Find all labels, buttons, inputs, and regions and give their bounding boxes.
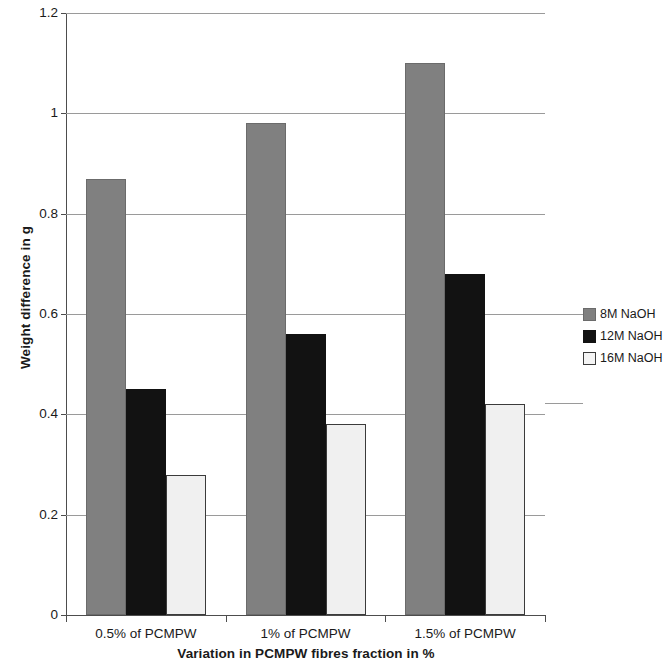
legend-item-0[interactable]: 8M NaOH <box>583 303 670 325</box>
x-axis-tick <box>385 615 386 622</box>
legend-swatch-icon <box>583 352 596 365</box>
legend-item-1[interactable]: 12M NaOH <box>583 325 670 347</box>
y-tick-mark <box>61 414 66 415</box>
bar-12m-naoh-1 <box>286 334 326 615</box>
gridline <box>66 214 545 215</box>
bar-16m-naoh-1 <box>326 424 366 615</box>
legend-swatch-icon <box>583 330 596 343</box>
legend-label: 12M NaOH <box>600 329 663 343</box>
y-tick-label: 0.6 <box>8 307 58 321</box>
bar-16m-naoh-2 <box>485 404 525 615</box>
y-tick-mark <box>61 13 66 14</box>
legend-item-2[interactable]: 16M NaOH <box>583 347 670 369</box>
x-category-label: 1.5% of PCMPW <box>375 626 555 641</box>
x-axis-line <box>66 615 545 616</box>
y-tick-mark <box>61 314 66 315</box>
legend-label: 16M NaOH <box>600 351 663 365</box>
x-axis-tick <box>66 615 67 622</box>
y-tick-label: 1.2 <box>8 6 58 20</box>
x-axis-tick <box>226 615 227 622</box>
bar-chart: Weight difference in g 1.210.80.60.40.20… <box>0 0 670 669</box>
legend-label: 8M NaOH <box>600 307 656 321</box>
y-tick-label: 1 <box>8 106 58 120</box>
bar-8m-naoh-1 <box>246 123 286 615</box>
y-tick-mark <box>61 515 66 516</box>
bar-8m-naoh-0 <box>86 179 126 615</box>
y-tick-label: 0.4 <box>8 407 58 421</box>
bar-12m-naoh-0 <box>126 389 166 615</box>
y-axis-title: Weight difference in g <box>18 188 33 408</box>
x-category-label: 0.5% of PCMPW <box>56 626 236 641</box>
gridline <box>66 13 545 14</box>
y-tick-label: 0.8 <box>8 207 58 221</box>
x-category-label: 1% of PCMPW <box>216 626 396 641</box>
gridline <box>66 113 545 114</box>
y-tick-mark <box>61 214 66 215</box>
bar-8m-naoh-2 <box>405 63 445 615</box>
y-tick-label: 0.2 <box>8 508 58 522</box>
legend-swatch-icon <box>583 308 596 321</box>
legend: 8M NaOH12M NaOH16M NaOH <box>583 303 670 369</box>
bar-16m-naoh-0 <box>166 475 206 615</box>
bar-12m-naoh-2 <box>445 274 485 615</box>
legend-leader-line <box>545 403 583 404</box>
x-axis-tick <box>545 615 546 622</box>
x-axis-title: Variation in PCMPW fibres fraction in % <box>66 646 546 661</box>
y-tick-label: 0 <box>8 608 58 622</box>
y-tick-mark <box>61 113 66 114</box>
plot-area: 1.210.80.60.40.20 0.5% of PCMPW1% of PCM… <box>66 13 545 615</box>
legend-leader-line <box>545 314 583 315</box>
